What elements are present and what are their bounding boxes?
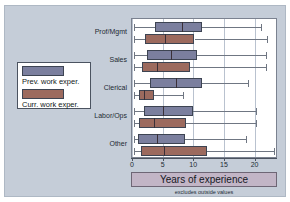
whisker-upper — [202, 27, 260, 28]
whisker-upper — [202, 83, 247, 84]
whisker-cap-lower — [134, 52, 135, 59]
whisker-cap-lower — [134, 148, 135, 155]
median-line — [154, 118, 155, 128]
box — [145, 34, 194, 44]
whisker-cap-lower — [134, 24, 135, 31]
legend: Prev. work exper. Curr. work exper. — [17, 62, 91, 109]
median-line — [144, 90, 145, 100]
whisker-cap-upper — [261, 24, 262, 31]
box — [139, 118, 186, 128]
plot-area — [131, 18, 277, 158]
x-axis-title: Years of experience — [160, 174, 248, 185]
whisker-upper — [185, 139, 246, 140]
whisker-lower — [134, 67, 142, 68]
whisker-cap-lower — [134, 120, 135, 127]
legend-label-prev: Prev. work exper. — [22, 77, 86, 87]
whisker-cap-lower — [134, 64, 135, 71]
box — [144, 106, 194, 116]
whisker-cap-upper — [256, 108, 257, 115]
median-line — [182, 22, 183, 32]
box-plot-row — [132, 106, 276, 117]
color-swatch-icon-curr — [22, 89, 64, 99]
whisker-cap-lower — [134, 136, 135, 143]
x-tick-label: 0 — [130, 161, 134, 169]
box-plot-row — [132, 134, 276, 145]
whisker-cap-upper — [267, 36, 268, 43]
median-line — [165, 34, 166, 44]
chart-figure: Prof/MgmtSalesClericalLabor/OpsOther 051… — [4, 5, 286, 197]
legend-entry-prev: Prev. work exper. — [22, 66, 86, 87]
whisker-lower — [134, 111, 144, 112]
x-axis-title-bar: Years of experience — [131, 172, 277, 187]
box — [139, 90, 154, 100]
box-plot-row — [132, 146, 276, 157]
box-plot-row — [132, 90, 276, 101]
x-tick-label: 10 — [189, 161, 197, 169]
whisker-lower — [134, 27, 155, 28]
legend-entry-curr: Curr. work exper. — [22, 89, 86, 110]
box-plot-row — [132, 50, 276, 61]
whisker-cap-lower — [134, 80, 135, 87]
whisker-upper — [197, 55, 266, 56]
legend-label-curr: Curr. work exper. — [22, 100, 86, 110]
box-plot-row — [132, 22, 276, 33]
whisker-cap-upper — [274, 148, 275, 155]
whisker-cap-upper — [183, 92, 184, 99]
whisker-upper — [190, 67, 266, 68]
median-line — [157, 62, 158, 72]
whisker-lower — [134, 83, 151, 84]
box-plot-row — [132, 34, 276, 45]
median-line — [157, 134, 158, 144]
whisker-cap-upper — [248, 80, 249, 87]
whisker-cap-upper — [266, 52, 267, 59]
whisker-cap-lower — [134, 92, 135, 99]
whisker-lower — [134, 55, 147, 56]
box — [138, 134, 185, 144]
whisker-upper — [195, 39, 267, 40]
box — [155, 22, 203, 32]
box-plot-row — [132, 118, 276, 129]
median-line — [164, 146, 165, 156]
box-plot-row — [132, 78, 276, 89]
whisker-lower — [134, 151, 141, 152]
median-line — [176, 78, 177, 88]
x-tick-label: 5 — [161, 161, 165, 169]
median-line — [163, 106, 164, 116]
whisker-cap-upper — [266, 64, 267, 71]
x-tick-label: 15 — [220, 161, 228, 169]
box — [141, 146, 207, 156]
box-plot-row — [132, 62, 276, 73]
box — [142, 62, 190, 72]
median-line — [171, 50, 172, 60]
whisker-cap-upper — [256, 120, 257, 127]
category-label: Prof/Mgmt — [67, 28, 127, 36]
whisker-upper — [186, 123, 256, 124]
whisker-upper — [193, 111, 256, 112]
x-tick-label: 20 — [251, 161, 259, 169]
category-label: Labor/Ops — [67, 112, 127, 120]
whisker-upper — [154, 95, 183, 96]
chart-note: excludes outside values — [131, 189, 277, 195]
color-swatch-icon-prev — [22, 66, 64, 76]
whisker-cap-lower — [134, 36, 135, 43]
whisker-upper — [207, 151, 274, 152]
whisker-cap-upper — [246, 136, 247, 143]
category-label: Other — [67, 140, 127, 148]
whisker-lower — [134, 39, 146, 40]
whisker-cap-lower — [134, 108, 135, 115]
